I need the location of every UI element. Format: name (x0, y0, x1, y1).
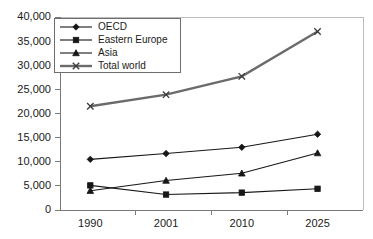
y-axis-tick-label: 25,000 (17, 83, 51, 95)
square-data-point (73, 37, 78, 42)
legend: OECDEastern EuropeAsiaTotal world (54, 18, 180, 72)
y-axis-tick-label: 10,000 (17, 155, 51, 167)
y-axis-tick-label: 35,000 (17, 35, 51, 47)
y-axis-tick-label: 15,000 (17, 131, 51, 143)
y-axis-tick-label: 0 (45, 203, 51, 215)
y-axis-tick-label: 30,000 (17, 59, 51, 71)
line-chart: 05,00010,00015,00020,00025,00030,00035,0… (0, 0, 373, 239)
legend-label: Total world (98, 60, 146, 71)
y-axis-tick-label: 20,000 (17, 107, 51, 119)
y-axis-tick-label: 40,000 (17, 10, 51, 22)
square-data-point (163, 192, 168, 197)
legend-label: Asia (98, 47, 118, 58)
y-axis-tick-label: 5,000 (23, 179, 51, 191)
legend-label: Eastern Europe (98, 34, 168, 45)
legend-label: OECD (98, 21, 127, 32)
x-axis-tick-label: 1990 (78, 217, 102, 229)
x-axis-tick-label: 2010 (230, 217, 254, 229)
chart-canvas: 05,00010,00015,00020,00025,00030,00035,0… (0, 0, 373, 239)
x-axis-tick-label: 2001 (154, 217, 178, 229)
square-data-point (239, 190, 244, 195)
x-axis-ticks: 1990200120102025 (78, 210, 330, 229)
square-data-point (315, 186, 320, 191)
x-axis-tick-label: 2025 (305, 217, 329, 229)
